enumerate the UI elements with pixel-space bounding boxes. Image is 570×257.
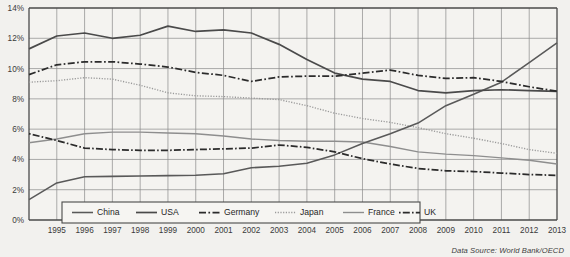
- data-source-note: Data Source: World Bank/OECD: [451, 246, 564, 255]
- legend-label-usa[interactable]: USA: [161, 207, 179, 217]
- x-tick-label: 2003: [270, 226, 289, 235]
- y-tick-label: 12%: [8, 34, 24, 43]
- y-tick-label: 6%: [12, 125, 24, 134]
- y-tick-label: 8%: [12, 95, 24, 104]
- legend-label-france[interactable]: France: [368, 207, 395, 217]
- y-tick-label: 14%: [8, 4, 24, 13]
- legend-label-germany[interactable]: Germany: [224, 207, 260, 217]
- legend-label-japan[interactable]: Japan: [300, 207, 324, 217]
- legend-label-china[interactable]: China: [97, 207, 120, 217]
- y-tick-label: 4%: [12, 155, 24, 164]
- x-tick-label: 2006: [353, 226, 372, 235]
- x-tick-label: 2005: [326, 226, 345, 235]
- legend-label-uk[interactable]: UK: [424, 207, 436, 217]
- x-tick-label: 2011: [493, 226, 511, 235]
- x-tick-label: 2004: [298, 226, 317, 235]
- x-tick-label: 2007: [381, 226, 400, 235]
- x-axis-tick-labels: 1995199619971998199920002001200220032004…: [48, 226, 567, 235]
- x-tick-label: 1996: [75, 226, 94, 235]
- x-tick-label: 1998: [131, 226, 150, 235]
- y-tick-label: 2%: [12, 186, 24, 195]
- chart-legend: ChinaUSAGermanyJapanFranceUK: [62, 202, 436, 223]
- y-tick-label: 0%: [12, 216, 24, 225]
- y-axis-tick-labels: 0%2%4%6%8%10%12%14%: [8, 4, 24, 225]
- x-tick-label: 2010: [465, 226, 484, 235]
- x-tick-label: 1995: [48, 226, 67, 235]
- plot-background: [29, 8, 557, 220]
- line-chart: 0%2%4%6%8%10%12%14% 19951996199719981999…: [0, 0, 570, 257]
- x-tick-label: 2013: [548, 226, 567, 235]
- x-tick-label: 1997: [103, 226, 122, 235]
- chart-plot-svg: 0%2%4%6%8%10%12%14% 19951996199719981999…: [0, 0, 570, 257]
- x-tick-label: 2012: [520, 226, 539, 235]
- y-tick-label: 10%: [8, 65, 24, 74]
- x-tick-label: 2009: [437, 226, 456, 235]
- x-tick-label: 2000: [187, 226, 206, 235]
- x-tick-label: 1999: [159, 226, 178, 235]
- x-tick-label: 2001: [214, 226, 233, 235]
- x-tick-label: 2008: [409, 226, 428, 235]
- x-tick-label: 2002: [242, 226, 261, 235]
